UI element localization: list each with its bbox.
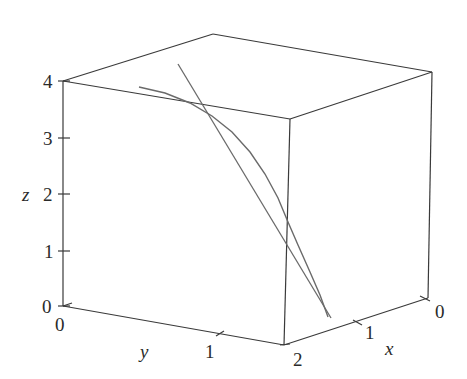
edge-bottom-y [63, 306, 284, 345]
z-axis-label: z [21, 184, 30, 205]
edge-top-left-front [63, 81, 290, 119]
3d-plot: 0 1 2 3 4 z 0 1 2 y 0 1 x [0, 0, 467, 379]
space-curve [139, 87, 328, 317]
y-tick-label-1: 1 [205, 341, 215, 362]
edge-top-front-right [290, 72, 432, 119]
z-tick-label-1: 1 [44, 241, 54, 262]
z-axis-ticks [58, 81, 70, 306]
y-axis-ticks [63, 303, 290, 345]
x-tick-label-0: 0 [435, 301, 445, 322]
z-tick-label-2: 2 [43, 184, 53, 205]
tangent-line [178, 64, 331, 318]
z-tick-label-0: 0 [42, 296, 52, 317]
edge-top-left-back [63, 34, 213, 81]
y-tick-label-2: 2 [293, 349, 303, 370]
x-axis-label: x [384, 338, 394, 359]
y-axis-label: y [138, 341, 149, 362]
x-tick-label-1: 1 [365, 322, 375, 343]
z-tick-label-3: 3 [43, 128, 53, 149]
bounding-box [63, 34, 432, 345]
z-tick-label-4: 4 [43, 71, 53, 92]
y-tick-label-0: 0 [55, 314, 65, 335]
edge-top-back-right [213, 34, 432, 72]
edge-right-vertical [428, 72, 432, 298]
edge-front-vertical [284, 119, 290, 345]
